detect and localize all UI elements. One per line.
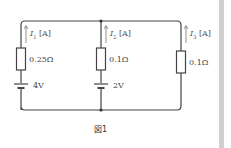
current-arrow-1-icon (24, 26, 28, 44)
current-subscript: 1 (33, 34, 36, 40)
resistance-label-1: 0.25Ω (29, 56, 53, 64)
figure-caption: 図1 (94, 123, 107, 134)
battery-2-icon (94, 83, 109, 89)
current-label-3: I3 [A] (190, 30, 211, 40)
resistance-label-3: 0.1Ω (189, 59, 208, 67)
current-unit: [A] (199, 29, 211, 38)
junction-dot-bottom (99, 108, 102, 111)
current-label-1: I1 [A] (30, 30, 51, 40)
circuit-diagram (0, 0, 231, 148)
resistor-2-icon (97, 48, 106, 70)
current-subscript: 3 (193, 34, 196, 40)
resistor-1-icon (17, 48, 26, 70)
current-label-2: I2 [A] (110, 30, 131, 40)
current-unit: [A] (39, 29, 51, 38)
current-unit: [A] (119, 29, 131, 38)
current-arrow-3-icon (184, 26, 188, 44)
emf-label-1: 4V (33, 82, 44, 90)
battery-1-icon (14, 83, 29, 89)
resistor-3-icon (177, 51, 186, 73)
current-arrow-2-icon (104, 26, 108, 44)
current-subscript: 2 (113, 34, 116, 40)
emf-label-2: 2V (113, 82, 124, 90)
resistance-label-2: 0.1Ω (109, 56, 128, 64)
junction-dot-top (99, 19, 102, 22)
